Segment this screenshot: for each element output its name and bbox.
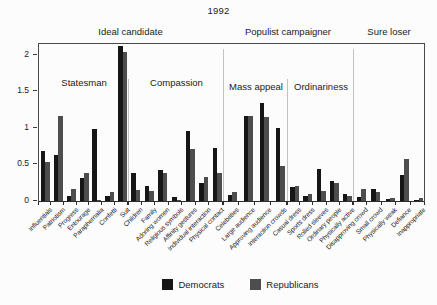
x-axis-labels: InfluentialsPatriotismProgressEntourageP… [38,205,425,277]
y-axis: 00.511.52 [0,43,38,202]
legend: Democrats Republicans [0,279,437,290]
bar-republican [404,159,409,201]
section-label: Compassion [150,77,203,88]
section-label: Statesman [61,77,106,88]
group-header-sure-loser: Sure loser [367,26,410,37]
bar-republican [97,200,102,201]
bar-republican [264,117,269,201]
section-divider [353,49,354,201]
y-tick [33,200,37,201]
bar-republican [177,200,182,201]
section-divider [287,79,288,201]
y-tick [33,127,37,128]
bar-republican [419,198,424,201]
bar-republican [84,173,89,201]
bar-republican [149,191,154,201]
legend-label-republicans: Republicans [266,279,318,290]
y-tick [33,163,37,164]
legend-item-democrats: Democrats [162,279,224,290]
bar-republican [280,166,285,201]
bar-republican [334,183,339,201]
bar-republican [136,190,141,201]
bar-chart-figure: 1992 Ideal candidate Populist campaigner… [0,0,437,305]
chart-title: 1992 [0,5,437,16]
group-header-ideal-candidate: Ideal candidate [98,26,162,37]
bar-republican [347,196,352,201]
y-tick [33,90,37,91]
y-tick-label: 1 [24,122,29,132]
bar-republican [110,192,115,201]
bar-republican [308,194,313,201]
bar-republican [71,189,76,201]
democrats-swatch-icon [162,279,173,290]
bar-republican [190,149,195,201]
bar-republican [163,173,168,201]
bar-republican [390,198,395,201]
section-label: Mass appeal [229,81,283,92]
republicans-swatch-icon [250,279,261,290]
legend-item-republicans: Republicans [250,279,318,290]
bar-republican [376,192,381,201]
y-tick-label: 2 [24,49,29,59]
bar-republican [217,173,222,201]
bar-republican [232,192,237,201]
section-divider [223,49,224,201]
bar-republican [248,116,253,201]
section-divider [128,79,129,201]
plot-area: StatesmanCompassionMass appealOrdinarine… [38,43,425,202]
section-label: Ordinariness [294,81,348,92]
bar-republican [58,116,63,201]
y-tick-label: 0 [24,195,29,205]
bar-republican [123,52,128,201]
y-tick [33,54,37,55]
bar-republican [321,191,326,201]
y-tick-label: 0.5 [17,158,29,168]
bar-republican [295,186,300,201]
y-tick-label: 1.5 [17,85,29,95]
group-header-populist-campaigner: Populist campaigner [245,26,331,37]
bar-republican [45,162,50,201]
legend-label-democrats: Democrats [178,279,224,290]
bar-republican [204,177,209,201]
bar-democrat [92,129,97,201]
bar-republican [361,189,366,201]
